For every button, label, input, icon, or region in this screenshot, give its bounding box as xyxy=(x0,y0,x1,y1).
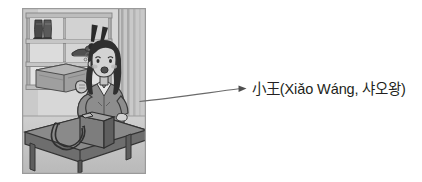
raised-fist xyxy=(76,81,88,93)
shoe-store-illustration xyxy=(22,8,146,174)
right-hand xyxy=(116,113,127,121)
annotation-label: 小王(Xiǎo Wáng, 샤오왕) xyxy=(252,79,406,99)
pointer-arrow-head xyxy=(239,85,247,92)
figure-root: 小王(Xiǎo Wáng, 샤오왕) xyxy=(0,0,422,182)
pointer-arrow-line xyxy=(140,89,240,102)
boots xyxy=(33,20,52,39)
illustration-canvas xyxy=(22,8,146,174)
mouth xyxy=(101,67,108,73)
